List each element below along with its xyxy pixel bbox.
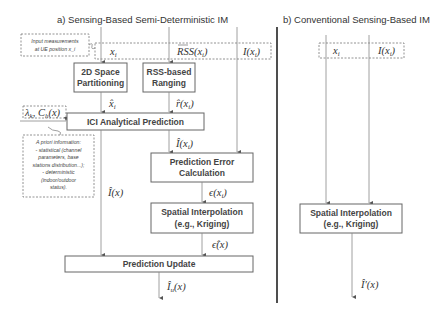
diagram-canvas: a) Sensing-Based Semi-Deterministic IM b… [0,0,448,323]
signal-I-u: Îu(x) [166,281,186,294]
ranging-label-1: RSS-based [147,67,192,77]
signal-I-prime: Î′(x) [360,279,379,291]
apriori-line-5: - deterministic [42,169,75,175]
update-label: Prediction Update [123,259,196,269]
ranging-label-2: Ranging [152,78,186,88]
spatial-a-label-2: (e.g., Kriging) [175,219,230,229]
panel-a-title: a) Sensing-Based Semi-Deterministic IM [57,14,228,25]
apriori-connector [48,127,61,135]
input-x: xi [109,46,117,59]
spatial-a-label-1: Spatial Interpolation [161,207,243,217]
panel-b-title: b) Conventional Sensing-Based IM [283,14,430,25]
input-I-b: I(xi) [377,45,396,58]
signal-r-hat: r̂(xi) [176,98,194,111]
partitioning-label-2: Partitioning [77,78,124,88]
diagram: a) Sensing-Based Semi-Deterministic IM b… [0,0,448,323]
input-rss: RSS(xi) [176,46,208,59]
input-I: I(xi) [242,46,261,59]
spatial-b-label-2: (e.g., Kriging) [324,219,379,229]
apriori-line-4: stations distribution...); [33,162,85,168]
ici-label: ICI Analytical Prediction [87,117,184,127]
signal-eps-hat: ϵ̂(x) [212,239,228,251]
signal-eps: ϵ(xi) [209,187,227,200]
apriori-line-7: status). [50,184,67,190]
input-note-line2: at UE position x_i [35,46,76,52]
signal-x-hat: x̂i [108,98,116,111]
pred-error-label-1: Prediction Error [170,157,235,167]
signal-I-hat-x: Î(x) [107,187,124,199]
apriori-line-6: (indoor/outdoor [41,177,76,183]
input-x-b: xi [332,45,340,58]
input-note-connector [89,44,95,49]
signal-I-hat-xi: Î(xi) [175,138,194,151]
input-note-line1: Input measurements [31,38,79,44]
apriori-line-1: A priori information: [35,139,81,145]
partitioning-label-1: 2D Space [81,67,120,77]
apriori-line-3: parameters, base [37,154,78,160]
spatial-b-label-1: Spatial Interpolation [310,208,392,218]
apriori-line-2: - statistical (channel [36,147,83,153]
pred-error-label-2: Calculation [179,168,225,178]
